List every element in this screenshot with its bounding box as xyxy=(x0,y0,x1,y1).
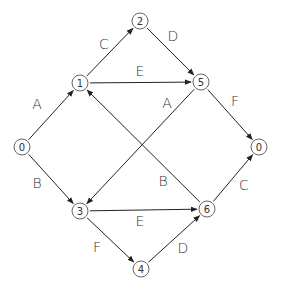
node-label: 1 xyxy=(77,78,83,89)
node-n5: 5 xyxy=(193,74,209,90)
edge-label: F xyxy=(93,239,101,255)
node-n0: 0 xyxy=(14,139,30,155)
edge-n4-n6 xyxy=(148,216,199,263)
edge-label: A xyxy=(162,95,172,111)
node-label: 4 xyxy=(138,264,144,275)
node-label: 0 xyxy=(256,142,262,153)
network-diagram: ACDEFBABEFDC 01250364 xyxy=(0,0,281,288)
edge-label: D xyxy=(178,240,189,256)
edge-label: C xyxy=(99,36,109,52)
edge-label: C xyxy=(239,177,249,193)
edge-label: E xyxy=(136,213,145,229)
edge-label: E xyxy=(136,63,145,79)
node-label: 0 xyxy=(19,142,25,153)
edge-n1-n5 xyxy=(90,82,191,83)
node-label: 3 xyxy=(77,206,83,217)
edge-n1-n2 xyxy=(87,28,133,76)
node-n1: 1 xyxy=(72,75,88,91)
node-n2: 2 xyxy=(132,13,148,29)
edge-n5-n3 xyxy=(87,89,194,203)
edge-label: B xyxy=(158,173,167,189)
edge-labels-layer: ACDEFBABEFDC xyxy=(32,28,249,256)
edge-label: D xyxy=(168,28,179,44)
node-n4: 4 xyxy=(133,261,149,277)
diagram-canvas: ACDEFBABEFDC 01250364 xyxy=(0,0,281,288)
node-n0b: 0 xyxy=(251,139,267,155)
edge-n3-n6 xyxy=(90,209,197,211)
edge-label: F xyxy=(231,93,239,109)
edge-label: B xyxy=(32,175,41,191)
nodes-layer: 01250364 xyxy=(14,13,267,277)
node-label: 5 xyxy=(198,77,204,88)
node-label: 6 xyxy=(204,204,210,215)
node-label: 2 xyxy=(137,16,143,27)
edge-label: A xyxy=(32,96,42,112)
node-n3: 3 xyxy=(72,203,88,219)
node-n6: 6 xyxy=(199,201,215,217)
